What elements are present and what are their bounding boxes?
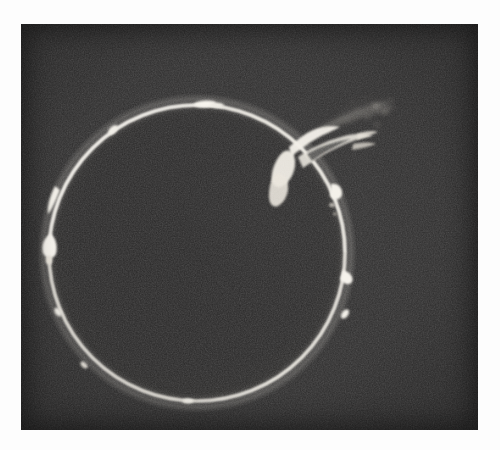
photo-page — [0, 0, 500, 450]
bottom-knot — [182, 398, 193, 403]
wispy-streamers — [321, 99, 393, 130]
eclipse-scene — [21, 24, 478, 430]
solar-eclipse-photograph — [21, 24, 478, 430]
